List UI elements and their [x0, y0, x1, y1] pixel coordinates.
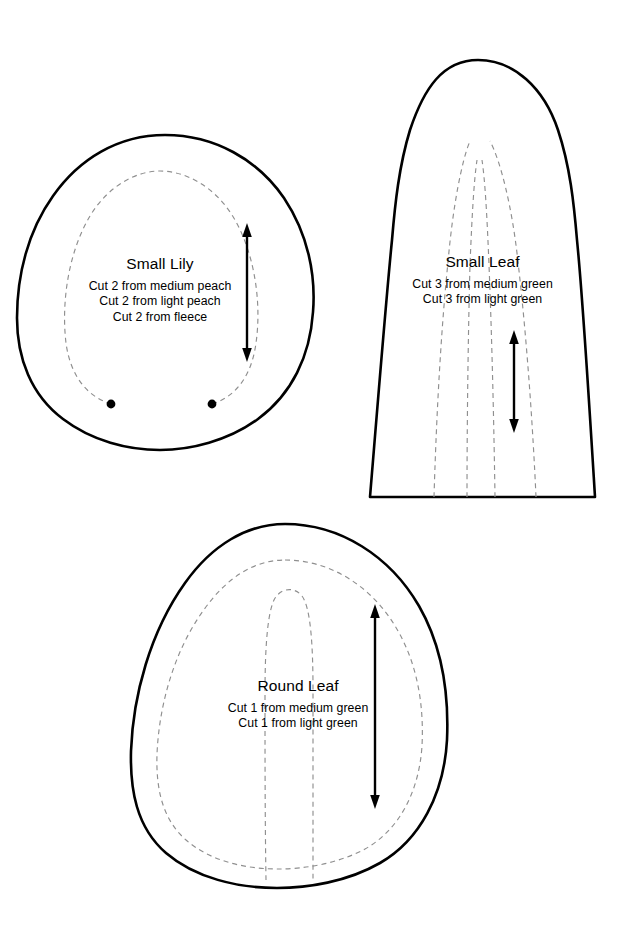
round-leaf-instruction-2: Cut 1 from light green	[198, 716, 398, 732]
small-lily-instruction-2: Cut 2 from light peach	[60, 294, 260, 310]
round-leaf-label-block: Round Leaf Cut 1 from medium green Cut 1…	[198, 678, 398, 732]
small-leaf-title: Small Leaf	[395, 254, 570, 270]
small-lily-title: Small Lily	[60, 256, 260, 272]
round-leaf-title: Round Leaf	[198, 678, 398, 694]
small-lily-instruction-1: Cut 2 from medium peach	[60, 279, 260, 295]
small-lily-placement-dot-left	[107, 400, 116, 409]
small-leaf-instruction-1: Cut 3 from medium green	[395, 277, 570, 293]
pattern-drawing	[0, 0, 630, 933]
small-lily-placement-dot-right	[208, 400, 217, 409]
small-leaf-label-block: Small Leaf Cut 3 from medium green Cut 3…	[395, 254, 570, 308]
small-lily-label-block: Small Lily Cut 2 from medium peach Cut 2…	[60, 256, 260, 326]
pattern-sheet: Small Lily Cut 2 from medium peach Cut 2…	[0, 0, 630, 933]
small-lily-instruction-3: Cut 2 from fleece	[60, 310, 260, 326]
round-leaf-instruction-1: Cut 1 from medium green	[198, 701, 398, 717]
small-leaf-instruction-2: Cut 3 from light green	[395, 292, 570, 308]
